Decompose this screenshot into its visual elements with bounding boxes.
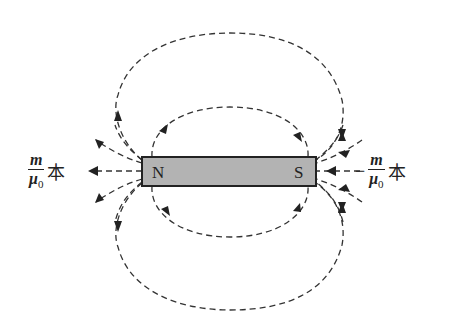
- bar-magnet: [142, 157, 316, 186]
- unit-label: 本: [47, 158, 65, 184]
- arrow-icon: [159, 124, 168, 134]
- arrow-icon: [338, 150, 350, 158]
- fraction-denominator: μ0: [369, 170, 383, 190]
- field-line-inner-bottom: [152, 186, 308, 237]
- arrow-icon: [88, 166, 98, 176]
- field-line-n-upper-steep: [115, 125, 142, 160]
- flux-fraction-right: m μ0: [368, 152, 384, 190]
- field-line-outer-bottom: [116, 183, 343, 310]
- fraction-numerator: m: [368, 152, 384, 170]
- field-line-outer-top: [116, 33, 343, 160]
- right-flux-label: − m μ0 本: [355, 152, 406, 190]
- field-line-inner-top: [152, 107, 308, 157]
- arrow-icon: [114, 110, 122, 121]
- flux-fraction-left: m μ0: [28, 152, 44, 190]
- left-flux-label: m μ0 本: [28, 152, 65, 190]
- fraction-numerator: m: [28, 152, 44, 170]
- arrow-icon: [338, 184, 350, 192]
- arrow-icon: [114, 221, 122, 232]
- north-pole-label: N: [152, 163, 164, 182]
- south-pole-label: S: [294, 163, 303, 182]
- fraction-denominator: μ0: [29, 170, 43, 190]
- arrow-icon: [326, 166, 336, 176]
- unit-label: 本: [388, 158, 406, 184]
- minus-sign: −: [355, 161, 365, 182]
- arrow-icon: [293, 203, 301, 212]
